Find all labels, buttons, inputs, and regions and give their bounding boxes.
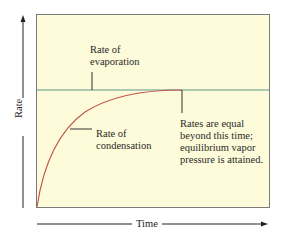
- y-axis-label: Rate: [13, 99, 24, 118]
- x-axis-label: Time: [134, 218, 160, 229]
- condensation-annotation-line1: Rate of: [96, 128, 151, 140]
- evaporation-annotation: Rate of evaporation: [90, 44, 140, 68]
- equilibrium-annotation-line2: beyond this time;: [180, 130, 263, 142]
- condensation-annotation-line2: condensation: [96, 140, 151, 152]
- evaporation-annotation-line2: evaporation: [90, 56, 140, 68]
- evaporation-annotation-line1: Rate of: [90, 44, 140, 56]
- equilibrium-annotation-line3: equilibrium vapor: [180, 142, 263, 154]
- equilibrium-annotation-line4: pressure is attained.: [180, 154, 263, 166]
- equilibrium-annotation: Rates are equal beyond this time; equili…: [180, 118, 263, 166]
- equilibrium-annotation-line1: Rates are equal: [180, 118, 263, 130]
- condensation-annotation: Rate of condensation: [96, 128, 151, 152]
- y-axis-arrowhead-icon: [21, 15, 26, 22]
- x-axis-arrowhead-icon: [261, 222, 268, 227]
